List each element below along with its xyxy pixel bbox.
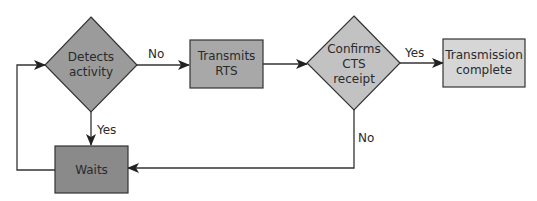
svg-text:RTS: RTS bbox=[215, 64, 237, 78]
svg-text:Confirms: Confirms bbox=[327, 42, 381, 56]
edge-detects-to-rts: No bbox=[137, 47, 189, 65]
svg-text:activity: activity bbox=[69, 65, 113, 79]
svg-text:CTS: CTS bbox=[342, 57, 365, 71]
node-waits: Waits bbox=[55, 146, 128, 193]
svg-text:Transmits: Transmits bbox=[197, 49, 256, 63]
edge-label-yes: Yes bbox=[404, 46, 424, 60]
svg-text:Waits: Waits bbox=[75, 163, 108, 177]
edge-label-no: No bbox=[358, 131, 374, 145]
node-detects-activity: Detects activity bbox=[45, 17, 137, 112]
edge-label-yes: Yes bbox=[96, 123, 116, 137]
svg-text:Transmission: Transmission bbox=[444, 48, 523, 62]
svg-text:receipt: receipt bbox=[333, 72, 375, 86]
edge-confirms-to-waits: No bbox=[128, 110, 374, 168]
node-confirms-cts-receipt: Confirms CTS receipt bbox=[307, 16, 400, 110]
flowchart-canvas: No Yes Yes No Detects activity Transmits… bbox=[0, 0, 537, 201]
node-transmits-rts: Transmits RTS bbox=[190, 40, 263, 88]
edge-waits-to-detects bbox=[17, 65, 55, 170]
svg-text:complete: complete bbox=[456, 63, 512, 77]
edge-detects-to-waits: Yes bbox=[91, 112, 116, 145]
svg-text:Detects: Detects bbox=[68, 50, 114, 64]
edge-label-no: No bbox=[148, 47, 164, 61]
node-transmission-complete: Transmission complete bbox=[443, 39, 525, 87]
edge-confirms-to-complete: Yes bbox=[400, 46, 443, 63]
